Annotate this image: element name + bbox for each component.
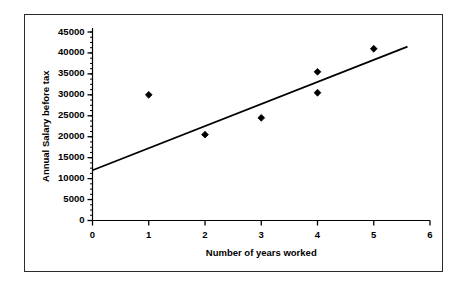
data-point-marker [314,89,321,96]
y-axis-tick-label: 0 [79,214,84,225]
y-axis-tick-label: 20000 [58,130,84,141]
x-axis-tick-label: 3 [259,229,264,240]
figure-root: 0500010000150002000025000300003500040000… [0,0,462,285]
x-axis-tick-label: 1 [146,229,152,240]
y-axis-tick-label: 30000 [58,88,84,99]
data-point-marker [145,91,152,98]
data-point-marker [202,131,209,138]
y-axis-tick-label: 35000 [58,67,84,78]
trendline-segment [93,47,408,171]
data-point-marker [370,45,377,52]
y-axis-title: Annual Salary before tax [40,70,51,182]
y-axis: 0500010000150002000025000300003500040000… [58,26,92,226]
x-axis-title: Number of years worked [206,247,317,258]
scatter-chart: 0500010000150002000025000300003500040000… [0,0,462,285]
y-axis-tick-label: 5000 [63,193,84,204]
y-axis-tick-label: 40000 [58,46,84,57]
x-axis-tick-label: 0 [90,229,95,240]
y-axis-tick-label: 15000 [58,151,84,162]
y-axis-tick-label: 10000 [58,172,84,183]
x-axis-tick-label: 6 [427,229,432,240]
x-axis-tick-label: 5 [371,229,377,240]
y-axis-tick-label: 45000 [58,26,84,37]
data-points [145,45,377,138]
y-axis-tick-label: 25000 [58,109,84,120]
trendline [93,47,408,171]
data-point-marker [258,114,265,121]
x-axis-tick-label: 2 [202,229,207,240]
data-point-marker [314,68,321,75]
x-axis-tick-label: 4 [315,229,321,240]
x-axis: 0123456 [90,221,433,241]
